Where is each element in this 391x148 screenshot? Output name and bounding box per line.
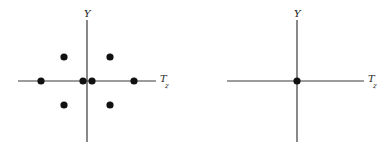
y-axis-label: Y bbox=[294, 8, 302, 19]
data-point bbox=[106, 53, 113, 60]
right-weight-diagram: Y T z bbox=[227, 8, 377, 142]
data-point bbox=[88, 77, 95, 84]
x-axis-label-subscript: z bbox=[372, 82, 377, 90]
data-point bbox=[106, 101, 113, 108]
x-axis-label-subscript: z bbox=[164, 82, 169, 90]
data-point bbox=[60, 101, 67, 108]
data-point bbox=[79, 77, 86, 84]
data-point bbox=[37, 77, 44, 84]
data-points bbox=[293, 77, 300, 84]
y-axis-label: Y bbox=[84, 8, 92, 19]
data-point bbox=[60, 53, 67, 60]
left-weight-diagram: Y T z bbox=[18, 8, 169, 142]
diagram-canvas: Y T z Y T z bbox=[0, 0, 391, 148]
data-point bbox=[130, 77, 137, 84]
data-point bbox=[293, 77, 300, 84]
